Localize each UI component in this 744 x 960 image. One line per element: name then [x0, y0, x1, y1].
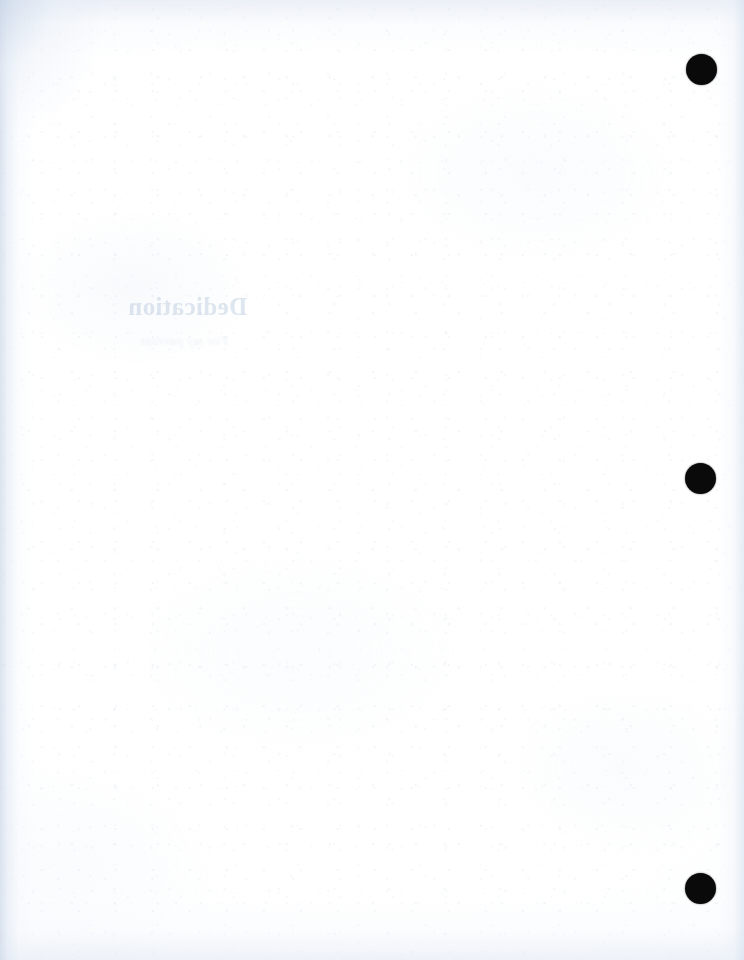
punch-hole-middle — [685, 463, 716, 494]
scan-edge-shading-right — [718, 0, 744, 960]
scanned-page: Dedication For my parents — [0, 0, 744, 960]
punch-hole-top — [686, 54, 717, 85]
scan-corner-shading-top-left — [0, 0, 120, 150]
punch-hole-bottom — [685, 873, 716, 904]
scan-edge-shading-bottom — [0, 900, 744, 960]
